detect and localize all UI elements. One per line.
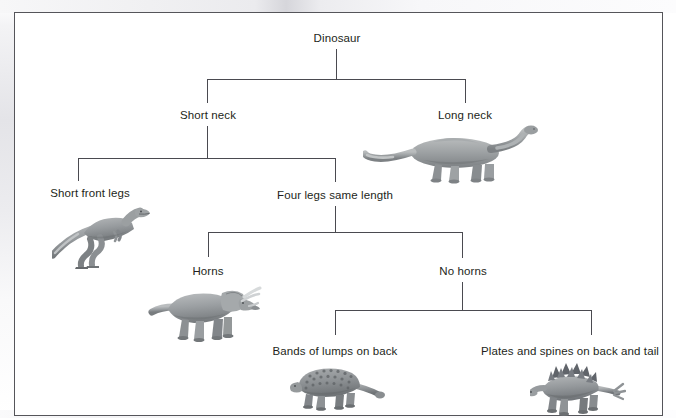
connector-dinosaur-bar (207, 79, 466, 80)
node-label-no-horns: No horns (439, 265, 486, 278)
node-label-four-legs-same-length: Four legs same length (277, 189, 393, 202)
connector-dinosaur-stem (336, 49, 337, 80)
node-label-short-front-legs: Short front legs (50, 187, 130, 200)
connector-four-legs-bar (208, 232, 463, 233)
theropod-dinosaur-icon (52, 203, 152, 269)
node-label-dinosaur: Dinosaur (314, 32, 361, 45)
connector-short-neck-stem (207, 126, 208, 158)
triceratops-dinosaur-icon (148, 283, 262, 343)
connector-to-no-horns (462, 232, 463, 258)
connector-to-bands-lumps (335, 310, 336, 335)
node-label-horns: Horns (192, 265, 223, 278)
connector-no-horns-bar (335, 310, 592, 311)
connector-no-horns-stem (462, 282, 463, 311)
connector-to-horns (208, 232, 209, 257)
sauropod-dinosaur-icon (363, 122, 539, 184)
connector-to-short-neck (207, 79, 208, 103)
node-label-short-neck: Short neck (180, 109, 236, 122)
connector-four-legs-stem (335, 206, 336, 233)
ankylosaurus-dinosaur-icon (290, 361, 386, 413)
dinosaur-key-diagram: Dinosaur Short neck Long neck Short fron… (0, 0, 676, 418)
stegosaurus-dinosaur-icon (530, 360, 626, 418)
node-label-long-neck: Long neck (438, 109, 492, 122)
connector-to-plates-spines (591, 310, 592, 335)
connector-to-long-neck (465, 79, 466, 103)
node-label-plates-and-spines: Plates and spines on back and tail (481, 345, 659, 358)
connector-to-four-legs (335, 158, 336, 182)
node-label-bands-of-lumps-on-back: Bands of lumps on back (273, 345, 398, 358)
connector-short-neck-bar (78, 158, 336, 159)
connector-to-short-front-legs (78, 158, 79, 181)
